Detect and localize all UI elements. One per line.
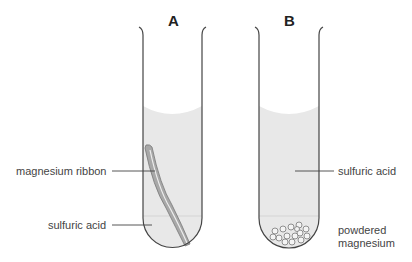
- label-magnesium: magnesium: [338, 237, 395, 249]
- label-powdered: powdered: [338, 224, 386, 236]
- tube-a-liquid: [143, 106, 202, 248]
- label-magnesium-ribbon: magnesium ribbon: [16, 165, 107, 177]
- label-sulfuric-acid-b: sulfuric acid: [338, 165, 396, 177]
- diagram: A B magnesium ribbon sulfuric acid sulfu…: [0, 0, 412, 262]
- tube-a-title: A: [168, 12, 179, 29]
- tube-b-title: B: [284, 12, 295, 29]
- label-sulfuric-acid-a: sulfuric acid: [48, 219, 106, 231]
